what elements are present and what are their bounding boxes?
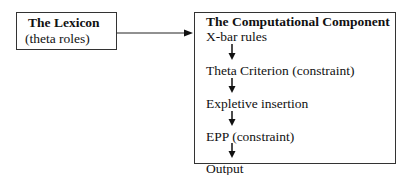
arrow-lexicon-to-component-icon <box>117 30 193 37</box>
arrow-down-icon <box>229 111 236 126</box>
arrow-down-icon <box>229 78 236 93</box>
arrow-down-icon <box>229 44 236 60</box>
arrow-down-icon <box>229 143 236 158</box>
connector-arrows <box>0 0 410 175</box>
